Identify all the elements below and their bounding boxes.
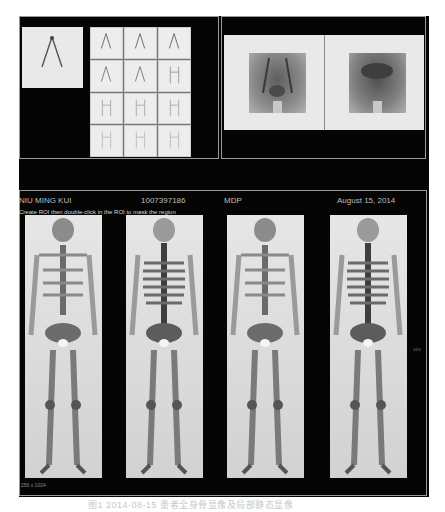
frame-thumb[interactable] [90, 125, 123, 157]
frame-thumb[interactable] [90, 27, 123, 59]
skeleton-posterior-icon [330, 215, 407, 478]
whole-body-posterior-1[interactable] [126, 215, 203, 478]
frame-thumb[interactable] [90, 60, 123, 92]
frame-thumb[interactable] [124, 27, 157, 59]
skeleton-posterior-icon [126, 215, 203, 478]
frame-grid [90, 27, 191, 157]
frame-thumb[interactable] [158, 60, 191, 92]
pelvis-views [224, 35, 424, 130]
spot-view-image[interactable] [22, 27, 83, 88]
frame-thumb[interactable] [158, 125, 191, 157]
patient-id: 1007397186 [141, 196, 186, 206]
whole-body-posterior-2[interactable] [330, 215, 407, 478]
skeleton-anterior-icon [25, 215, 102, 478]
frame-thumb[interactable] [124, 93, 157, 125]
frame-thumb[interactable] [124, 60, 157, 92]
skeleton-anterior-icon [227, 215, 304, 478]
vessel-spot-icon [22, 27, 83, 88]
whole-body-anterior-2[interactable] [227, 215, 304, 478]
side-marker: 11% [413, 347, 421, 352]
patient-name: NIU MING KUI [19, 196, 71, 206]
view-divider [324, 35, 325, 130]
figure-caption: 图1 2014-08-15 患者全身骨显像及局部静态显像 [88, 498, 293, 511]
frame-thumb[interactable] [124, 125, 157, 157]
matrix-size-label: 256 x 1024 [21, 482, 46, 488]
study-date: August 15, 2014 [337, 196, 395, 206]
tracer-label: MDP [224, 196, 242, 206]
pelvis-anterior-image[interactable] [249, 53, 306, 113]
frame-thumb[interactable] [158, 93, 191, 125]
whole-body-anterior-1[interactable] [25, 215, 102, 478]
pelvis-posterior-image[interactable] [349, 53, 406, 113]
frame-thumb[interactable] [158, 27, 191, 59]
frame-thumb[interactable] [90, 93, 123, 125]
